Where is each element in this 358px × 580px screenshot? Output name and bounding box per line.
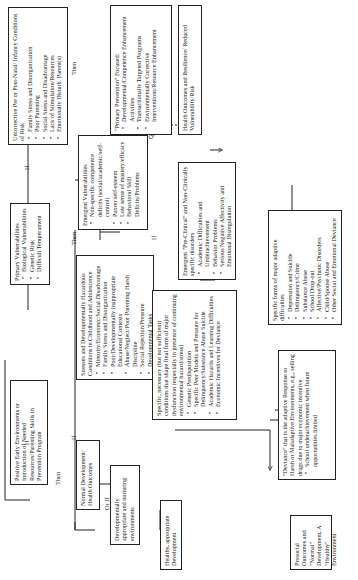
box-normal-development: Normal Development/ Health Outcomes (76, 440, 100, 510)
list-item: Family Stress and Disorganization (101, 259, 108, 367)
list-item: Non-specific competence deficits (social… (88, 139, 110, 217)
list-item: School underachievement when future oppo… (303, 354, 318, 467)
list-item: Abuse/Neglect/Poor Parenting Harsh Disci… (123, 259, 138, 367)
list-item: Family Stress and Disorganization (26, 11, 33, 132)
list-item: Genetic Risk (28, 207, 35, 272)
label-if: If (23, 441, 30, 445)
box-title: Uncorrective Pre or Post-Natal/ Infancy … (11, 11, 26, 141)
box-title: Emergent "Pre-Clinical" and Non-Clinical… (181, 166, 196, 276)
box-developmentally-appropriate: Developmentally appropriate and nurturin… (110, 465, 140, 545)
list-item: Lack of Stimulation/Resources (48, 11, 55, 132)
list-item: Poor/Developmentally Inappropriate Educa… (109, 259, 124, 367)
list-item: Behavior Problems (211, 166, 218, 267)
list-item: Depression and Suicide (286, 214, 293, 312)
list-item: Biological Vulnerabilities (20, 207, 27, 272)
list-item: Specific Peer Models and Pressure for De… (192, 294, 207, 407)
label-then: Then (70, 62, 77, 75)
list-item: Affective/Psychotic Disorders (315, 214, 322, 312)
box-title: Healthy, appropriate Development (163, 504, 178, 566)
box-healthy-development: Healthy, appropriate Development (160, 500, 182, 570)
list-item: Social Stress and Disadvantage (41, 11, 48, 132)
box-stresses-hazardous-conditions: Stresses and Developmentally Hazardous C… (76, 255, 154, 380)
list-item: Emotionally Disturb. Parent(s) (55, 11, 62, 132)
box-positive-early-environments: Positive Early Environments or Introduct… (10, 380, 48, 485)
list-item: Serious Negative Affectivity and Emotion… (218, 166, 233, 267)
box-title: "Primary Prevention" Focused: (113, 9, 120, 131)
flow-diagram: Positive Early Environments or Introduct… (0, 0, 358, 580)
label-if: If (150, 236, 157, 240)
list-item: Genetic Predisposition (185, 294, 192, 407)
list-item: Developmental/Competence Enhancement Act… (120, 9, 135, 122)
list-item: Other Social and Emotional Deviance (330, 214, 337, 312)
label-if: If (23, 166, 30, 170)
list-item: Transactionally Targeted Programs (135, 9, 142, 122)
list-item: School Drop-out (308, 214, 315, 312)
label-or-if: Or If (103, 497, 110, 510)
box-title: Emergent Vulnerabilities (81, 139, 88, 226)
label-if: If (70, 436, 77, 440)
list-item: Minority/Economic/Social Disadvantage (94, 259, 101, 367)
list-item: Social Rejection/Pressure (138, 259, 145, 367)
box-title: "Deviance" that is the adaptive Response… (281, 354, 303, 476)
label-then: Then (54, 472, 61, 485)
list-item: Poor Parenting (33, 11, 40, 132)
box-adaptive-deviance: "Deviance" that is the adaptive Response… (278, 350, 336, 480)
list-item: Delinquency/Crime (293, 214, 300, 312)
list-item: Environmentally Corrective Interventions… (143, 9, 158, 122)
box-title: Prosocial Outcomes and "Normal" Developm… (293, 519, 337, 566)
box-specific-forms-adaptive-difficulties: Specific forms of major adaptive difficu… (268, 210, 342, 325)
box-title: Health Outcomes and Resilience/ Reduced … (181, 9, 196, 131)
list-item: Economic Incentives for Deviance (214, 294, 221, 407)
box-title: Specific forms of major adaptive difficu… (271, 214, 286, 321)
list-item: Difficult Temperament (35, 207, 42, 272)
box-title: Normal Development/ Health Outcomes (79, 444, 94, 506)
box-primary-prevention: "Primary Prevention" Focused: Developmen… (110, 5, 172, 135)
list-item: Child/Spouse Abuse (323, 214, 330, 312)
box-title: Positive Early Environments or Introduct… (13, 384, 43, 481)
box-uncorrective-conditions: Uncorrective Pre or Post-Natal/ Infancy … (8, 7, 68, 145)
list-item: Behavioral Skill Deficits/Problems (125, 139, 140, 217)
box-primary-vulnerabilities: Primary Vulnerabilities Biological Vulne… (10, 203, 50, 285)
list-item: Poorer self-esteem (111, 139, 118, 217)
list-item: Substance Abuse (301, 214, 308, 312)
box-pre-clinical-disorders: Emergent "Pre-Clinical" and Non-Clinical… (178, 162, 236, 280)
box-title: Stresses and Developmentally Hazardous C… (79, 259, 94, 376)
box-emergent-vulnerabilities: Emergent Vulnerabilities Non-specific co… (78, 135, 148, 230)
box-specific-necessary-conditions: Specific, necessary (but not sufficient)… (152, 290, 237, 420)
box-title: Primary Vulnerabilities (13, 207, 20, 281)
box-title: Developmentally appropriate and nurturin… (113, 469, 135, 541)
box-prosocial-outcomes: Prosocial Outcomes and "Normal" Developm… (290, 515, 332, 570)
box-title: Specific, necessary (but not sufficient)… (155, 294, 185, 416)
list-item: Low sense of mastery/efficacy (118, 139, 125, 217)
list-item: Academic Hazards and Learning Difficulti… (207, 294, 214, 407)
label-then: Then (70, 232, 77, 245)
list-item: Academic Difficulties and Underachieveme… (196, 166, 211, 267)
box-health-outcomes-resilience: Health Outcomes and Resilience/ Reduced … (178, 5, 202, 135)
